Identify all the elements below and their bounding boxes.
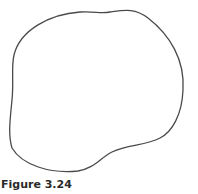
figure-caption: Figure 3.24	[1, 178, 72, 191]
irregular-closed-curve	[0, 0, 198, 194]
figure: Figure 3.24	[0, 0, 198, 194]
